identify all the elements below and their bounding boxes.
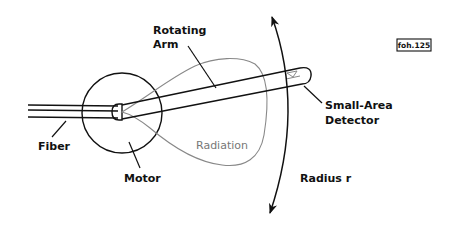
- detector-icon: [286, 71, 300, 79]
- rotating-arm-label-line2: Arm: [153, 38, 178, 51]
- radiation-label: Radiation: [196, 139, 248, 152]
- fiber-label: Fiber: [38, 140, 71, 153]
- motor-leader: [129, 142, 140, 168]
- fiber-leader: [52, 121, 66, 137]
- figure-tag: foh.125: [397, 39, 431, 51]
- detector-label-line1: Small-Area: [325, 99, 393, 112]
- detector-label-line2: Detector: [325, 114, 380, 127]
- detector-leader: [304, 86, 322, 103]
- measurement-setup-diagram: Rotating Arm Small-Area Detector Fiber M…: [0, 0, 454, 226]
- radius-arc-arrow: [270, 17, 288, 213]
- radius-label: Radius r: [300, 172, 352, 185]
- figure-tag-text: foh.125: [398, 41, 430, 50]
- fiber: [28, 105, 118, 118]
- rotating-arm-label-line1: Rotating: [153, 24, 206, 37]
- motor-label: Motor: [124, 172, 161, 185]
